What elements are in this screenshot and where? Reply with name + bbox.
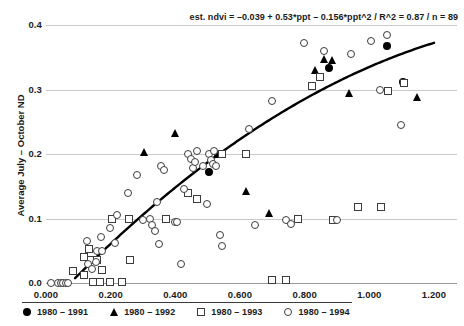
data-point: [316, 73, 324, 81]
data-point: [413, 93, 421, 101]
data-point: [96, 278, 104, 286]
data-point: [294, 215, 302, 223]
x-tick-label: 1.200: [404, 289, 464, 300]
data-point: [384, 87, 392, 95]
data-point: [265, 209, 273, 217]
data-point: [155, 240, 163, 248]
data-point: [383, 42, 391, 50]
x-tick-label: 0.000: [16, 289, 76, 300]
data-point: [268, 97, 276, 105]
data-point: [153, 198, 161, 206]
data-point: [151, 227, 159, 235]
data-point: [160, 166, 168, 174]
x-tick-label: 1.000: [339, 289, 399, 300]
data-point: [173, 218, 181, 226]
data-point: [106, 224, 114, 232]
legend-item[interactable]: 1980 – 1992: [109, 307, 175, 317]
legend-item[interactable]: 1980 – 1994: [283, 307, 349, 317]
data-point: [191, 158, 199, 166]
data-point: [210, 147, 218, 155]
data-point: [287, 220, 295, 228]
legend-label: 1980 – 1991: [37, 307, 88, 317]
data-point: [133, 171, 141, 179]
data-point: [111, 239, 119, 247]
legend-marker-filled-triangle-icon: [109, 307, 119, 317]
x-tick-label: 0.200: [81, 289, 141, 300]
data-point: [216, 231, 224, 239]
legend-item[interactable]: 1980 – 1993: [196, 307, 262, 317]
data-point: [199, 162, 207, 170]
data-point: [193, 195, 201, 203]
data-point: [218, 242, 226, 250]
data-point: [126, 256, 134, 264]
data-point: [245, 125, 253, 133]
x-tick-label: 0.400: [145, 289, 205, 300]
y-tick-label: 0.0: [2, 277, 42, 288]
data-point: [397, 121, 405, 129]
data-point: [300, 39, 308, 47]
data-point: [242, 150, 250, 158]
legend-items: 1980 – 19911980 – 19921980 – 19931980 – …: [22, 307, 371, 317]
data-point: [162, 215, 170, 223]
y-tick-label: 0.4: [2, 19, 42, 30]
legend-label: 1980 – 1992: [124, 307, 175, 317]
data-point: [98, 247, 106, 255]
data-point: [80, 271, 88, 279]
data-point: [118, 278, 126, 286]
gridline-y: [46, 90, 457, 91]
data-point: [212, 162, 220, 170]
data-point: [171, 129, 179, 137]
legend-item[interactable]: 1980 – 1991: [22, 307, 88, 317]
data-point: [125, 215, 133, 223]
data-point: [69, 267, 77, 275]
chart-legend: 1980 – 19911980 – 19921980 – 19931980 – …: [0, 302, 464, 326]
data-point: [268, 276, 276, 284]
data-point: [376, 86, 384, 94]
regression-annotation: est. ndvi = –0.039 + 0.53*ppt – 0.156*pp…: [190, 12, 458, 22]
data-point: [106, 278, 114, 286]
legend-divider: [22, 302, 352, 303]
chart-figure: 0.00.10.20.30.4 0.0000.2000.4000.6000.80…: [0, 0, 464, 326]
data-point: [83, 237, 91, 245]
data-point: [85, 245, 93, 253]
data-point: [242, 187, 250, 195]
legend-marker-open-square-icon: [196, 307, 206, 317]
plot-area: 0.00.10.20.30.4 0.0000.2000.4000.6000.80…: [0, 0, 464, 300]
data-point: [251, 221, 259, 229]
data-point: [92, 258, 100, 266]
data-point: [400, 79, 408, 87]
y-axis-label: Average July – October ND: [15, 76, 26, 236]
data-point: [325, 64, 333, 72]
data-point: [328, 56, 336, 64]
regression-curve: [0, 0, 464, 300]
data-point: [377, 203, 385, 211]
data-point: [203, 200, 211, 208]
data-point: [367, 37, 375, 45]
data-point: [333, 216, 341, 224]
data-point: [98, 266, 106, 274]
gridline-y: [46, 154, 457, 155]
data-point: [345, 89, 353, 97]
data-point: [97, 233, 105, 241]
data-point: [140, 148, 148, 156]
data-point: [113, 211, 121, 219]
data-point: [282, 276, 290, 284]
data-point: [308, 82, 316, 90]
data-point: [218, 150, 226, 158]
data-point: [64, 279, 72, 287]
x-tick-label: 0.600: [210, 289, 270, 300]
data-point: [177, 260, 185, 268]
data-point: [347, 50, 355, 58]
gridline-y: [46, 25, 457, 26]
data-point: [320, 47, 328, 55]
legend-label: 1980 – 1994: [298, 307, 349, 317]
legend-label: 1980 – 1993: [211, 307, 262, 317]
x-tick-label: 0.800: [275, 289, 335, 300]
data-point: [193, 147, 201, 155]
data-point: [354, 203, 362, 211]
data-point: [205, 168, 213, 176]
legend-marker-open-circle-icon: [283, 307, 293, 317]
legend-marker-filled-circle-icon: [22, 307, 32, 317]
data-point: [383, 31, 391, 39]
data-point: [124, 189, 132, 197]
